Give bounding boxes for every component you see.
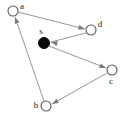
arrowhead-a-d — [78, 25, 85, 30]
node-label-c: c — [109, 76, 113, 86]
directed-graph-figure: adscb — [0, 0, 127, 118]
node-d[interactable] — [86, 25, 96, 35]
edge-line-s-c — [49, 46, 106, 68]
node-c[interactable] — [107, 65, 117, 75]
edge-d-s — [51, 33, 86, 46]
node-label-a: a — [20, 1, 24, 11]
edge-s-c — [49, 46, 106, 68]
node-s[interactable] — [39, 38, 50, 49]
node-a[interactable] — [8, 6, 18, 16]
edge-line-d-s — [51, 33, 86, 42]
arrowhead-b-a — [15, 17, 20, 24]
node-label-s: s — [39, 26, 43, 36]
arrowhead-s-c — [99, 63, 106, 68]
edge-line-a-d — [18, 12, 85, 29]
arrowhead-c-b — [52, 99, 59, 104]
edge-line-c-b — [52, 73, 107, 104]
node-label-d: d — [98, 19, 103, 29]
edge-c-b — [52, 73, 107, 104]
arrowhead-d-s — [51, 41, 58, 46]
node-label-b: b — [34, 100, 39, 110]
edge-a-d — [18, 12, 85, 30]
labels-group: adscb — [20, 1, 113, 110]
graph-canvas: adscb — [0, 0, 127, 118]
node-b[interactable] — [41, 101, 51, 111]
